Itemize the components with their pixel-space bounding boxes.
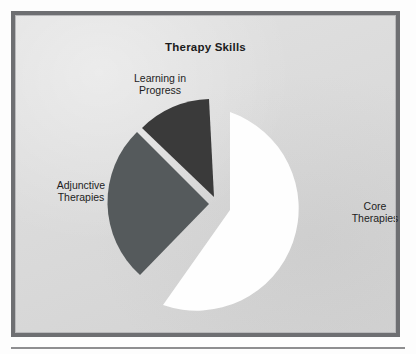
pie-label-adjunctive-therapies: Adjunctive Therapies [33, 180, 129, 203]
pie-label-core-therapies: Core Therapies [333, 201, 416, 224]
chart-frame-border: Therapy Skills Learning in Progress Adju… [11, 11, 400, 337]
pie-label-learning-in-progress: Learning in Progress [112, 73, 208, 96]
pie-chart [15, 15, 396, 333]
chart-plot-area: Therapy Skills Learning in Progress Adju… [15, 15, 396, 333]
bottom-divider-rule [11, 347, 405, 349]
figure-root: Therapy Skills Learning in Progress Adju… [0, 0, 416, 354]
